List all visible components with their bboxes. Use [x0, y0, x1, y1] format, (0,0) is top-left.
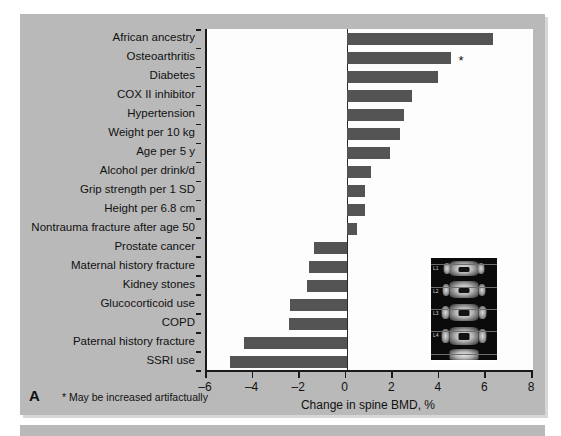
bar	[289, 318, 347, 330]
bar	[244, 337, 346, 349]
dxa-scan-image: L1L2L3L4	[431, 258, 497, 360]
bar	[309, 261, 346, 273]
y-axis-tick	[196, 256, 201, 258]
y-axis-tick	[196, 105, 201, 107]
zero-reference-line	[347, 29, 349, 370]
y-axis-tick	[196, 351, 201, 353]
figure-panel-a: African ancestryOsteoarthritisDiabetesCO…	[0, 0, 561, 436]
x-axis-tick	[298, 372, 300, 378]
y-axis-tick-label: Nontrauma fracture after age 50	[31, 221, 195, 233]
x-axis-tick-label: 6	[469, 380, 499, 394]
y-axis-tick-label: Age per 5 y	[136, 145, 195, 157]
x-axis-tick	[345, 372, 347, 378]
y-axis-tick-label: Maternal history fracture	[71, 259, 195, 271]
dxa-spine-scan-inset: L1L2L3L4	[428, 255, 500, 363]
y-axis-tick-label: COX II inhibitor	[117, 88, 195, 100]
x-axis-tick-label: 0	[330, 380, 360, 394]
x-axis-tick-label: 4	[423, 380, 453, 394]
x-axis-tick-label: 2	[376, 380, 406, 394]
bar	[347, 128, 401, 140]
y-axis-tick-label: Weight per 10 kg	[108, 126, 195, 138]
y-axis-tick-label: Kidney stones	[123, 278, 195, 290]
y-axis-tick	[196, 332, 201, 334]
vertebra-divider	[431, 354, 497, 355]
y-axis-tick-label: Paternal history fracture	[73, 335, 195, 347]
annotation-asterisk: *	[459, 56, 464, 66]
y-axis-tick-label: Diabetes	[150, 69, 195, 81]
x-axis-tick	[438, 372, 440, 378]
vertebra-label: L3	[433, 310, 439, 316]
bar	[347, 52, 452, 64]
figure-footnote: * May be increased artifactually	[62, 391, 208, 403]
bar	[307, 280, 347, 292]
x-axis-tick-label: 8	[516, 380, 546, 394]
vertebra-divider	[431, 331, 497, 332]
y-axis-tick-label: Glucocorticoid use	[100, 297, 195, 309]
y-axis-tick	[196, 237, 201, 239]
x-axis-tick	[484, 372, 486, 378]
y-axis-tick-label: Height per 6.8 cm	[104, 202, 195, 214]
bar	[347, 204, 366, 216]
x-axis-tick-label: –2	[283, 380, 313, 394]
y-axis-tick-label: Grip strength per 1 SD	[80, 183, 195, 195]
y-axis-tick-label: Alcohol per drink/d	[100, 164, 195, 176]
y-axis-tick	[196, 294, 201, 296]
y-axis-tick-label: Hypertension	[127, 107, 195, 119]
bar	[290, 299, 347, 311]
bar	[347, 109, 404, 121]
y-axis-tick-label: Osteoarthritis	[127, 50, 195, 62]
x-axis-tick	[205, 372, 207, 378]
bar	[347, 185, 366, 197]
y-axis-tick	[196, 275, 201, 277]
x-axis-tick	[531, 372, 533, 378]
vertebra-label: L2	[433, 288, 439, 294]
x-axis-tick-label: –4	[237, 380, 267, 394]
panel-b-top-edge	[20, 425, 545, 436]
vertebra-divider	[431, 309, 497, 310]
bar	[347, 33, 494, 45]
vertebra-label: L1	[433, 265, 439, 271]
bar	[230, 356, 346, 368]
bar	[347, 90, 412, 102]
y-axis-tick-label: African ancestry	[113, 31, 195, 43]
y-axis-tick-label: COPD	[162, 316, 195, 328]
bar	[347, 147, 390, 159]
y-axis-tick	[196, 124, 201, 126]
y-axis-tick	[196, 86, 201, 88]
y-axis-tick-label: Prostate cancer	[114, 240, 195, 252]
y-axis-tick	[196, 48, 201, 50]
y-axis-tick	[196, 181, 201, 183]
bar	[347, 223, 357, 235]
x-axis-title: Change in spine BMD, %	[205, 398, 531, 412]
x-axis-tick	[252, 372, 254, 378]
vertebra-divider	[431, 264, 497, 265]
y-axis-tick	[196, 370, 201, 372]
y-axis-tick	[196, 200, 201, 202]
bar	[347, 71, 438, 83]
bar	[314, 242, 347, 254]
y-axis-tick	[196, 29, 201, 31]
y-axis-tick-label: SSRI use	[146, 354, 195, 366]
vertebra-divider	[431, 287, 497, 288]
y-axis-tick	[196, 313, 201, 315]
x-axis-tick	[391, 372, 393, 378]
panel-letter: A	[29, 387, 40, 404]
y-axis-tick	[196, 162, 201, 164]
y-axis-labels: African ancestryOsteoarthritisDiabetesCO…	[18, 29, 201, 370]
y-axis-tick	[196, 143, 201, 145]
bar	[347, 166, 371, 178]
vertebra-label: L4	[433, 332, 439, 338]
y-axis-tick	[196, 67, 201, 69]
y-axis-tick	[196, 218, 201, 220]
